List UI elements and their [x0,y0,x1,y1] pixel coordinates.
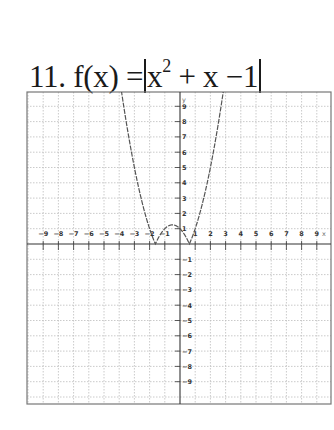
x-tick-label: −9 [38,230,48,238]
x-tick-label: 3 [223,230,228,238]
y-tick-label: 3 [182,195,187,203]
y-tick-label: 2 [182,210,187,218]
graph-frame [27,92,331,404]
x-tick-label: −4 [114,230,124,238]
y-tick-label: −4 [182,302,192,310]
y-tick-label: −7 [182,348,192,356]
x-tick-label: 7 [284,230,289,238]
x-tick-label: −8 [53,230,63,238]
x-axis-label: x [322,230,326,238]
coordinate-graph: −9−8−7−6−5−4−3−2−1123456789x987654321−1−… [0,0,334,430]
x-tick-label: 6 [269,230,274,238]
x-tick-label: 4 [239,230,244,238]
y-tick-label: 9 [182,103,187,111]
x-tick-label: −5 [99,230,109,238]
x-tick-label: 2 [208,230,213,238]
y-tick-label: −6 [182,332,192,340]
x-tick-label: 5 [254,230,259,238]
y-tick-label: −9 [182,378,192,386]
function-curve [116,54,228,244]
x-tick-label: 9 [315,230,320,238]
y-tick-label: 7 [182,133,187,141]
y-tick-label: 5 [182,164,187,172]
y-tick-label: −2 [182,271,192,279]
y-tick-label: 4 [182,179,187,187]
x-tick-label: −3 [129,230,139,238]
x-tick-label: −6 [84,230,94,238]
y-tick-label: −3 [182,286,192,294]
x-tick-label: −7 [69,230,79,238]
y-tick-label: 8 [182,118,187,126]
y-tick-label: −5 [182,317,192,325]
y-axis-label: y [182,96,186,104]
y-tick-label: 6 [182,149,187,157]
y-tick-label: −1 [182,256,192,264]
x-tick-label: 8 [299,230,304,238]
y-tick-label: 1 [182,225,187,233]
y-tick-label: −8 [182,363,192,371]
